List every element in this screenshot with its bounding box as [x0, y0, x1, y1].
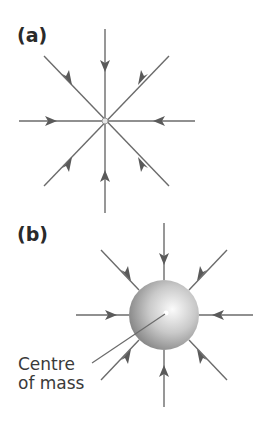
centre-of-mass-label: Centre of mass	[18, 355, 84, 393]
centre-of-mass-label-line1: Centre	[18, 355, 84, 374]
centre-of-mass-label-line2: of mass	[18, 374, 84, 393]
point-mass-icon	[102, 118, 108, 124]
